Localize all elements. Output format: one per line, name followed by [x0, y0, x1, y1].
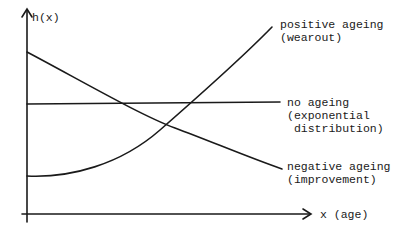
- hazard-rate-diagram: h(x) x (age) positive ageing (wearout) n…: [0, 0, 405, 236]
- x-axis-label: x (age): [320, 208, 368, 221]
- label-positive-line2: (wearout): [280, 31, 342, 44]
- label-none-line1: no ageing: [287, 96, 349, 109]
- label-negative-line2: (improvement): [287, 173, 377, 186]
- curve-no-ageing: [27, 102, 280, 104]
- label-none-line2: (exponential: [287, 109, 370, 122]
- label-negative-line1: negative ageing: [287, 160, 391, 173]
- curve-negative-ageing: [27, 52, 282, 169]
- label-none-line3: distribution): [287, 122, 384, 135]
- y-axis-label: h(x): [32, 11, 60, 24]
- label-positive-line1: positive ageing: [280, 18, 384, 31]
